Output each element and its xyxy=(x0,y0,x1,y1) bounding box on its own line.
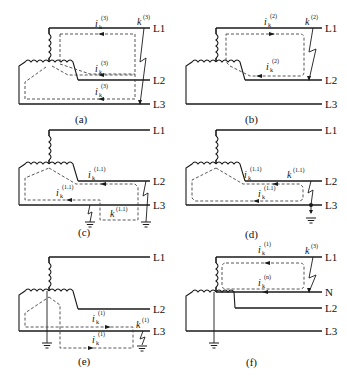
svg-text:k: k xyxy=(96,319,99,325)
svg-text:(1.1): (1.1) xyxy=(264,185,276,192)
svg-text:k: k xyxy=(262,250,265,256)
svg-text:(3): (3) xyxy=(101,60,108,67)
svg-text:(3): (3) xyxy=(101,15,108,22)
svg-text:k: k xyxy=(305,245,310,256)
current-label-e1: i k (1) xyxy=(92,310,105,325)
svg-text:(n): (n) xyxy=(264,274,271,281)
svg-text:k: k xyxy=(96,340,99,346)
svg-text:(1): (1) xyxy=(142,317,149,324)
label-l3: L3 xyxy=(153,98,166,110)
label-l2: L2 xyxy=(153,74,165,86)
svg-text:k: k xyxy=(262,194,265,200)
current-label-a3: i k (3) xyxy=(95,83,108,98)
svg-text:(2): (2) xyxy=(272,58,279,65)
svg-text:k: k xyxy=(248,175,251,181)
svg-text:i: i xyxy=(266,61,269,72)
diagram-e: L1 L2 L3 i k (1) i k (1) k (1) xyxy=(19,251,166,368)
svg-text:k: k xyxy=(99,69,102,75)
fault-label-c: k (1.1) xyxy=(110,206,128,219)
label-l1: L1 xyxy=(325,124,337,136)
svg-text:k: k xyxy=(60,193,63,199)
label-l1: L1 xyxy=(325,251,337,263)
svg-text:i: i xyxy=(88,169,91,180)
current-label-e2: i k (1) xyxy=(92,331,105,346)
svg-text:(3): (3) xyxy=(101,83,108,90)
svg-text:(1.1): (1.1) xyxy=(62,184,74,191)
svg-text:(1): (1) xyxy=(98,310,105,317)
current-label-a2: i k (3) xyxy=(95,60,108,75)
svg-text:(2): (2) xyxy=(270,13,277,20)
short-circuit-diagrams: L1 L2 L3 i k (3) i k (3) xyxy=(0,0,347,384)
svg-text:i: i xyxy=(258,277,261,288)
caption-c: (c) xyxy=(78,226,91,239)
label-n: N xyxy=(325,286,333,298)
fault-label-d: k (1.1) xyxy=(287,167,305,180)
label-l2: L2 xyxy=(325,302,337,314)
svg-text:(3): (3) xyxy=(143,14,150,21)
svg-text:i: i xyxy=(244,169,247,180)
svg-text:k: k xyxy=(136,319,141,330)
svg-text:k: k xyxy=(99,24,102,30)
diagram-d: L1 L2 L3 i k (1.1) i k (1.1) k (1.1) xyxy=(186,124,338,241)
svg-text:(1.1): (1.1) xyxy=(116,206,128,213)
caption-d: (d) xyxy=(245,228,258,241)
svg-text:(1.1): (1.1) xyxy=(94,166,106,173)
svg-text:i: i xyxy=(258,244,261,255)
label-l3: L3 xyxy=(153,199,166,211)
svg-text:k: k xyxy=(305,16,310,27)
diagram-c: L1 L2 L3 i k (1.1) i k (1.1) k (1.1) (c) xyxy=(19,124,166,239)
label-l1: L1 xyxy=(153,22,165,34)
svg-text:(1.1): (1.1) xyxy=(250,166,262,173)
fault-label-b: k (2) xyxy=(305,14,318,27)
svg-text:(2): (2) xyxy=(311,14,318,21)
caption-a: (a) xyxy=(75,113,88,126)
current-label-d1: i k (1.1) xyxy=(244,166,262,181)
svg-text:k: k xyxy=(287,169,292,180)
label-l3: L3 xyxy=(153,325,166,337)
svg-text:k: k xyxy=(268,22,271,28)
label-l1: L1 xyxy=(153,124,165,136)
label-l3: L3 xyxy=(325,98,338,110)
svg-text:i: i xyxy=(92,334,95,345)
svg-text:i: i xyxy=(264,16,267,27)
current-label-c2: i k (1.1) xyxy=(56,184,74,199)
svg-text:i: i xyxy=(95,18,98,29)
svg-text:(3): (3) xyxy=(311,243,318,250)
svg-text:i: i xyxy=(258,188,261,199)
diagram-f: L1 N L2 L3 i k (1) i k (n) k (3) xyxy=(186,241,338,369)
svg-text:i: i xyxy=(56,187,59,198)
svg-text:i: i xyxy=(95,86,98,97)
label-l2: L2 xyxy=(153,175,165,187)
label-l3: L3 xyxy=(325,325,338,337)
diagram-b: L1 L2 L3 i k (2) i k (2) k (2) (b) xyxy=(186,13,338,126)
svg-text:(1): (1) xyxy=(98,331,105,338)
fault-label-e: k (1) xyxy=(136,317,149,330)
current-label-d2: i k (1.1) xyxy=(258,185,276,200)
svg-text:i: i xyxy=(92,313,95,324)
svg-text:k: k xyxy=(110,208,115,219)
fault-label-a: k (3) xyxy=(137,14,150,27)
svg-text:k: k xyxy=(270,67,273,73)
label-l2: L2 xyxy=(325,175,337,187)
current-label-b2: i k (2) xyxy=(266,58,279,73)
fault-label-f: k (3) xyxy=(305,243,318,256)
current-label-f1: i k (1) xyxy=(258,241,271,256)
label-l1: L1 xyxy=(325,22,337,34)
svg-text:k: k xyxy=(99,92,102,98)
caption-f: (f) xyxy=(246,356,257,369)
svg-text:i: i xyxy=(95,63,98,74)
svg-text:k: k xyxy=(92,175,95,181)
caption-b: (b) xyxy=(245,113,258,126)
current-label-c1: i k (1.1) xyxy=(88,166,106,181)
caption-e: (e) xyxy=(78,355,91,368)
diagram-a: L1 L2 L3 i k (3) i k (3) xyxy=(19,14,166,126)
label-l2: L2 xyxy=(153,303,165,315)
current-label-b1: i k (2) xyxy=(264,13,277,28)
svg-text:(1): (1) xyxy=(264,241,271,248)
label-l3: L3 xyxy=(325,199,338,211)
svg-text:(1.1): (1.1) xyxy=(293,167,305,174)
svg-text:k: k xyxy=(262,283,265,289)
label-l2: L2 xyxy=(325,74,337,86)
svg-text:k: k xyxy=(137,16,142,27)
current-label-f2: i k (n) xyxy=(258,274,271,289)
